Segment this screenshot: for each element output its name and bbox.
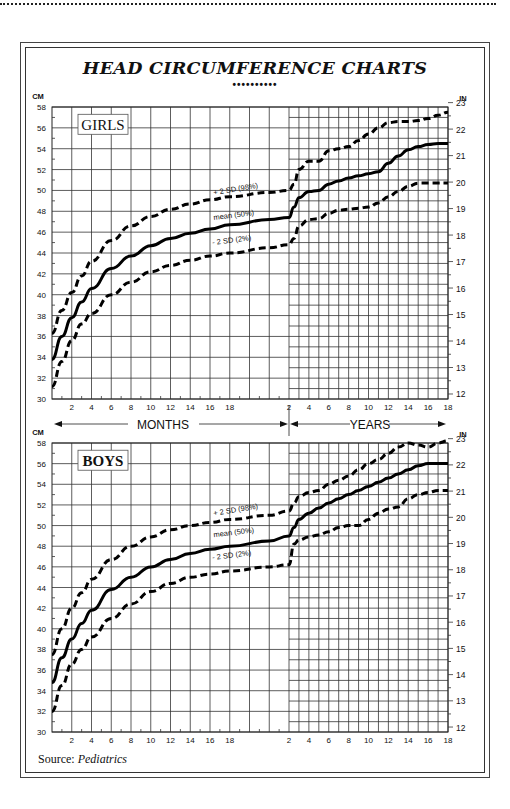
y-tick-label-cm: 52 xyxy=(37,166,46,175)
y-tick-label-in: 13 xyxy=(456,696,466,706)
y-tick-label-in: 20 xyxy=(456,178,466,188)
x-tick-label-months: 4 xyxy=(89,403,94,412)
x-tick-label-months: 12 xyxy=(166,403,175,412)
y-tick-label-cm: 42 xyxy=(37,604,46,613)
years-label: YEARS xyxy=(350,418,391,432)
y-tick-label-cm: 32 xyxy=(37,374,46,383)
arrow-left-icon xyxy=(54,421,62,427)
source-label: Source: xyxy=(38,752,78,766)
chart-panel-boys: CM303234363840424446485052545658IN121314… xyxy=(32,428,467,745)
series-annotation: + 2 SD (98%) xyxy=(213,502,260,518)
months-label: MONTHS xyxy=(137,418,189,432)
x-tick-label-years: 4 xyxy=(307,403,312,412)
panel-label-girls: GIRLS xyxy=(81,117,124,133)
x-tick-label-months: 8 xyxy=(129,736,134,745)
y-tick-label-cm: 46 xyxy=(37,563,46,572)
y-tick-label-in: 16 xyxy=(456,618,466,628)
y-tick-label-cm: 42 xyxy=(37,270,46,279)
y-tick-label-in: 20 xyxy=(456,513,466,523)
y-tick-label-in: 21 xyxy=(456,151,466,161)
y-tick-label-in: 12 xyxy=(456,723,466,733)
arrow-right-icon xyxy=(438,421,446,427)
y-tick-label-cm: 32 xyxy=(37,707,46,716)
source-name: Pediatrics xyxy=(78,752,127,766)
y-tick-label-cm: 58 xyxy=(37,439,46,448)
y-tick-label-in: 22 xyxy=(456,460,466,470)
x-tick-label-years: 6 xyxy=(327,736,332,745)
grid-lines xyxy=(52,107,448,399)
y-tick-label-in: 23 xyxy=(456,98,466,108)
y-tick-label-cm: 34 xyxy=(37,353,46,362)
x-tick-label-months: 14 xyxy=(186,403,195,412)
x-tick-label-months: 10 xyxy=(146,736,155,745)
y-tick-label-in: 17 xyxy=(456,591,466,601)
x-tick-label-years: 18 xyxy=(444,736,453,745)
x-tick-label-months: 18 xyxy=(225,403,234,412)
y-tick-label-in: 18 xyxy=(456,565,466,575)
y-tick-label-in: 12 xyxy=(456,389,466,399)
y-tick-label-in: 21 xyxy=(456,487,466,497)
y-tick-label-in: 16 xyxy=(456,284,466,294)
y-tick-label-in: 19 xyxy=(456,204,466,214)
unit-label-cm: CM xyxy=(32,92,44,101)
series-annotation: - 2 SD (2%) xyxy=(212,233,252,247)
source-citation: Source: Pediatrics xyxy=(38,752,127,767)
y-tick-label-in: 13 xyxy=(456,363,466,373)
y-tick-label-cm: 36 xyxy=(37,332,46,341)
x-tick-label-years: 2 xyxy=(287,736,292,745)
x-tick-label-months: 10 xyxy=(146,403,155,412)
panel-label-boys: BOYS xyxy=(83,453,124,469)
x-tick-label-months: 4 xyxy=(89,736,94,745)
y-tick-label-in: 15 xyxy=(456,310,466,320)
x-tick-label-months: 18 xyxy=(225,736,234,745)
x-tick-label-months: 2 xyxy=(70,736,75,745)
x-tick-label-months: 16 xyxy=(206,403,215,412)
y-tick-label-cm: 58 xyxy=(37,103,46,112)
y-tick-label-cm: 38 xyxy=(37,645,46,654)
y-tick-label-cm: 52 xyxy=(37,501,46,510)
series-annotation: mean (50%) xyxy=(213,525,255,539)
y-tick-label-cm: 56 xyxy=(37,124,46,133)
grid-lines xyxy=(52,443,448,732)
x-tick-label-years: 4 xyxy=(307,736,312,745)
x-tick-label-years: 18 xyxy=(444,403,453,412)
x-tick-label-years: 10 xyxy=(364,403,373,412)
y-tick-label-cm: 54 xyxy=(37,480,46,489)
y-tick-label-in: 18 xyxy=(456,231,466,241)
y-tick-label-cm: 36 xyxy=(37,666,46,675)
y-tick-label-in: 14 xyxy=(456,670,466,680)
x-tick-label-months: 14 xyxy=(186,736,195,745)
x-tick-label-years: 14 xyxy=(404,736,413,745)
x-tick-label-years: 16 xyxy=(424,736,433,745)
x-tick-label-years: 12 xyxy=(384,403,393,412)
y-tick-label-cm: 48 xyxy=(37,542,46,551)
series-annotation: mean (50%) xyxy=(213,208,255,222)
y-tick-label-cm: 46 xyxy=(37,228,46,237)
y-tick-label-cm: 56 xyxy=(37,460,46,469)
y-tick-label-cm: 44 xyxy=(37,249,46,258)
x-tick-label-months: 8 xyxy=(129,403,134,412)
x-tick-label-months: 2 xyxy=(70,403,75,412)
x-tick-label-months: 12 xyxy=(166,736,175,745)
y-tick-label-cm: 44 xyxy=(37,584,46,593)
unit-label-cm: CM xyxy=(32,428,44,437)
x-tick-label-years: 8 xyxy=(346,736,351,745)
x-tick-label-months: 6 xyxy=(109,736,114,745)
y-tick-label-in: 22 xyxy=(456,125,466,135)
y-tick-label-cm: 30 xyxy=(37,728,46,737)
x-tick-label-years: 8 xyxy=(346,403,351,412)
y-tick-label-in: 15 xyxy=(456,644,466,654)
x-tick-label-months: 16 xyxy=(206,736,215,745)
y-tick-label-cm: 50 xyxy=(37,522,46,531)
y-tick-label-cm: 40 xyxy=(37,625,46,634)
x-tick-label-years: 6 xyxy=(327,403,332,412)
y-tick-label-cm: 50 xyxy=(37,186,46,195)
arrow-right-icon xyxy=(280,421,288,427)
y-tick-label-cm: 54 xyxy=(37,145,46,154)
y-tick-label-cm: 40 xyxy=(37,291,46,300)
chart-panel-girls: CM303234363840424446485052545658IN121314… xyxy=(32,92,467,412)
x-tick-label-months: 6 xyxy=(109,403,114,412)
y-tick-label-in: 19 xyxy=(456,539,466,549)
series-annotation: - 2 SD (2%) xyxy=(212,548,252,562)
y-tick-label-cm: 48 xyxy=(37,207,46,216)
